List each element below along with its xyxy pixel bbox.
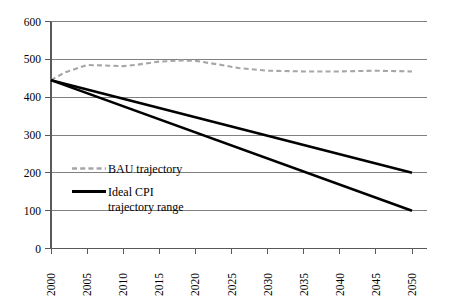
y-tick-label-300: 300 (24, 129, 42, 141)
y-tick-labels: 600 500 400 300 200 100 0 (24, 16, 42, 255)
x-tick-label-2020: 2020 (189, 273, 201, 296)
y-tick-label-100: 100 (24, 205, 42, 217)
x-tick-label-2035: 2035 (298, 273, 310, 296)
y-tick-label-400: 400 (24, 91, 42, 103)
x-tick-label-2000: 2000 (45, 273, 57, 296)
x-tick-label-2045: 2045 (370, 273, 382, 296)
y-tick-label-600: 600 (24, 16, 42, 28)
legend-label-ideal-cpi-line2: trajectory range (108, 200, 184, 214)
y-tick-marks (45, 22, 51, 249)
x-tick-label-2050: 2050 (406, 273, 418, 296)
gridlines (51, 22, 427, 211)
y-tick-label-500: 500 (24, 53, 42, 65)
series-ideal-cpi-upper (51, 80, 412, 173)
x-tick-label-2040: 2040 (334, 273, 346, 296)
chart-container: 600 500 400 300 200 100 0 2000 2005 2 (0, 0, 450, 302)
y-tick-label-0: 0 (35, 243, 41, 255)
chart-legend: BAU trajectory Ideal CPI trajectory rang… (72, 162, 184, 214)
line-chart: 600 500 400 300 200 100 0 2000 2005 2 (0, 0, 450, 302)
legend-label-bau: BAU trajectory (108, 162, 182, 176)
x-tick-label-2010: 2010 (117, 273, 129, 296)
data-series (51, 60, 412, 210)
x-tick-marks (51, 249, 412, 255)
x-tick-label-2015: 2015 (153, 273, 165, 296)
x-tick-label-2005: 2005 (81, 273, 93, 296)
y-tick-label-200: 200 (24, 167, 42, 179)
x-tick-label-2030: 2030 (262, 273, 274, 296)
legend-label-ideal-cpi-line1: Ideal CPI (108, 185, 154, 199)
series-bau-trajectory (51, 60, 412, 80)
x-tick-label-2025: 2025 (226, 273, 238, 296)
x-tick-labels: 2000 2005 2010 2015 2020 2025 2030 2035 … (45, 273, 418, 296)
